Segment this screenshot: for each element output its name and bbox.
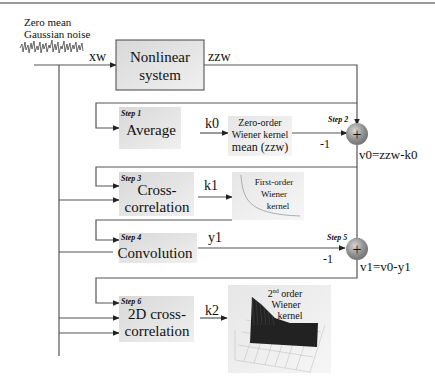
signal-xw: xw [89,49,107,64]
svg-text:Step 2: Step 2 [328,115,348,124]
wiener-kernel-diagram: Zero mean Gaussian noise xw Nonlinear sy… [0,0,435,384]
result-v1: v1=v0-y1 [360,259,411,274]
svg-text:Wiener kernel: Wiener kernel [232,129,289,140]
svg-text:correlation: correlation [125,323,190,339]
svg-text:Wiener: Wiener [271,299,301,310]
sum-node-step5: Step 5 + [327,233,368,260]
step4-convolution-block: Step 4 Convolution [117,233,197,263]
first-order-kernel-box: First-order Wiener kernel [232,172,304,220]
input-label-line1: Zero mean [24,16,72,28]
minus-one-2: -1 [323,252,333,266]
zero-order-kernel-box: Zero-order Wiener kernel mean (zzw) [228,116,292,156]
svg-text:system: system [139,67,181,83]
svg-text:kernel: kernel [267,201,290,211]
signal-k0: k0 [205,116,219,131]
svg-text:mean (zzw): mean (zzw) [232,140,288,154]
svg-text:Convolution: Convolution [117,245,193,261]
svg-text:Zero-order: Zero-order [238,117,282,128]
svg-text:+: + [352,241,361,258]
svg-text:Wiener: Wiener [261,189,287,199]
result-v0: v0=zzw-k0 [359,147,418,162]
second-order-kernel-box: 2nd order Wiener kernel [228,285,331,373]
svg-text:kernel: kernel [278,310,303,321]
svg-text:Cross-: Cross- [137,182,176,198]
svg-text:Step 1: Step 1 [121,109,141,118]
svg-text:Nonlinear: Nonlinear [130,49,190,65]
input-label-line2: Gaussian noise [24,28,90,40]
svg-text:correlation: correlation [125,199,190,215]
signal-zzw: zzw [208,49,231,64]
svg-text:Step 4: Step 4 [121,233,141,242]
step3-cross-correlation-block: Step 3 Cross- correlation [119,172,194,216]
step6-2d-cross-correlation-block: Step 6 2D cross- correlation [119,296,194,342]
sum-node-step2: Step 2 + [328,115,368,145]
signal-k1: k1 [204,178,218,193]
signal-k2: k2 [205,303,219,318]
step1-average-block: Step 1 Average [119,107,181,149]
signal-y1: y1 [208,230,222,245]
svg-text:Step 5: Step 5 [327,233,347,242]
noise-waveform-icon [20,40,83,53]
svg-text:+: + [352,126,361,143]
svg-text:Average: Average [126,122,176,138]
svg-text:Step 6: Step 6 [121,297,141,306]
svg-text:First-order: First-order [255,177,294,187]
nonlinear-system-block: Nonlinear system [116,40,204,90]
minus-one-1: -1 [320,137,330,151]
svg-text:2D cross-: 2D cross- [128,306,186,322]
